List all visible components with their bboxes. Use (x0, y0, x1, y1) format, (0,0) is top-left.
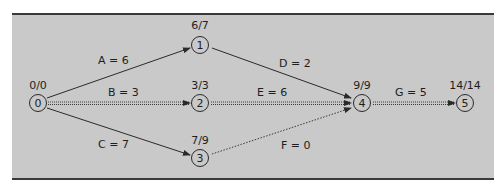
node-5-times: 14/14 (449, 79, 481, 92)
node-0-times: 0/0 (29, 79, 47, 92)
node-3-label: 3 (197, 152, 204, 165)
node-4-label: 4 (359, 97, 366, 110)
node-4-times: 9/9 (353, 79, 371, 92)
node-2: 2 3/3 (191, 79, 209, 112)
edge-e: E = 6 (211, 86, 351, 105)
edge-f-label: F = 0 (281, 139, 311, 152)
node-5: 5 14/14 (449, 79, 481, 112)
edge-g-label: G = 5 (395, 86, 427, 99)
node-3: 3 7/9 (191, 134, 209, 167)
node-1-times: 6/7 (191, 19, 209, 32)
network-diagram: A = 6 B = 3 C = 7 D = 2 E = 6 F = 0 G = … (0, 0, 503, 188)
edge-e-label: E = 6 (257, 86, 287, 99)
node-1-label: 1 (197, 39, 204, 52)
node-2-times: 3/3 (191, 79, 209, 92)
node-2-label: 2 (197, 97, 204, 110)
node-4: 4 9/9 (353, 79, 371, 112)
edge-c-label: C = 7 (98, 138, 129, 151)
edge-b: B = 3 (48, 86, 190, 105)
edge-a-label: A = 6 (98, 54, 129, 67)
edge-g: G = 5 (373, 86, 455, 105)
node-1: 1 6/7 (191, 19, 209, 54)
node-0-label: 0 (35, 97, 42, 110)
edge-c: C = 7 (47, 108, 190, 155)
node-0: 0 0/0 (29, 79, 47, 112)
edge-d-label: D = 2 (279, 57, 311, 70)
node-3-times: 7/9 (191, 134, 209, 147)
edge-f: F = 0 (212, 108, 351, 154)
edge-b-label: B = 3 (108, 86, 139, 99)
node-5-label: 5 (462, 97, 469, 110)
